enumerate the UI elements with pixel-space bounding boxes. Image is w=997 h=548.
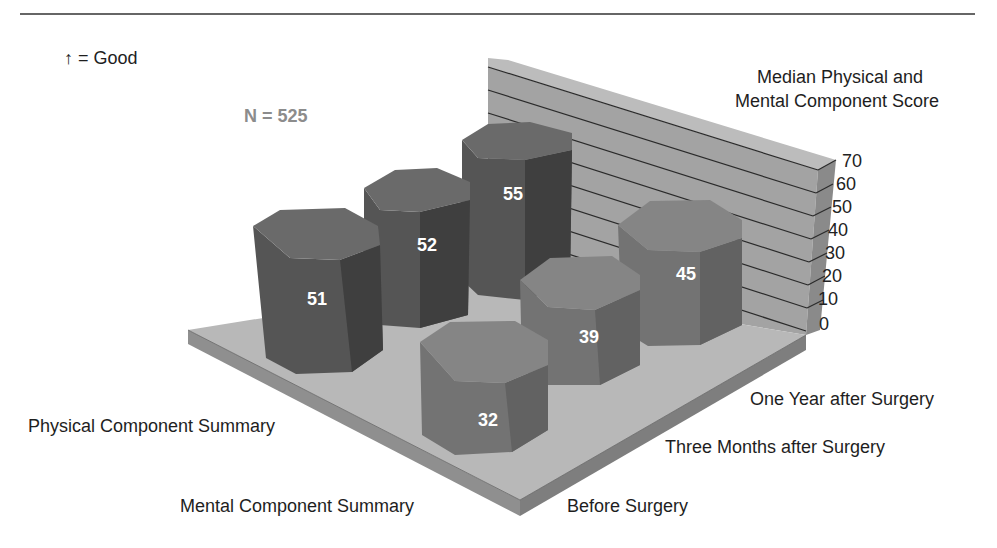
value-mcs-one-year: 45: [676, 264, 696, 284]
value-mcs-before: 32: [478, 410, 498, 430]
tick-0: 0: [819, 314, 829, 334]
y-axis-title-line1: Median Physical and: [757, 67, 923, 87]
y-axis-title-line2: Mental Component Score: [735, 91, 939, 111]
tick-70: 70: [842, 151, 862, 171]
tick-10: 10: [818, 289, 838, 309]
tick-20: 20: [822, 266, 842, 286]
col-label-one-year: One Year after Surgery: [750, 389, 934, 409]
tick-60: 60: [836, 174, 856, 194]
value-pcs-before: 51: [307, 289, 327, 309]
value-mcs-three-months: 39: [579, 327, 599, 347]
col-label-three-months: Three Months after Surgery: [665, 437, 885, 457]
column-mcs-before: 32: [420, 321, 548, 455]
tick-30: 30: [825, 243, 845, 263]
good-direction-note: ↑ = Good: [64, 48, 138, 68]
row-label-mental: Mental Component Summary: [180, 496, 414, 516]
value-pcs-one-year: 55: [503, 184, 523, 204]
sample-size-label: N = 525: [244, 106, 308, 126]
column-pcs-before: 51: [253, 208, 383, 374]
row-label-physical: Physical Component Summary: [28, 416, 275, 436]
tick-40: 40: [828, 220, 848, 240]
col-label-before-surgery: Before Surgery: [567, 496, 688, 516]
tick-50: 50: [832, 197, 852, 217]
value-pcs-three-months: 52: [417, 235, 437, 255]
chart-figure: ↑ = Good N = 525 Median Physical and Men…: [0, 0, 997, 548]
